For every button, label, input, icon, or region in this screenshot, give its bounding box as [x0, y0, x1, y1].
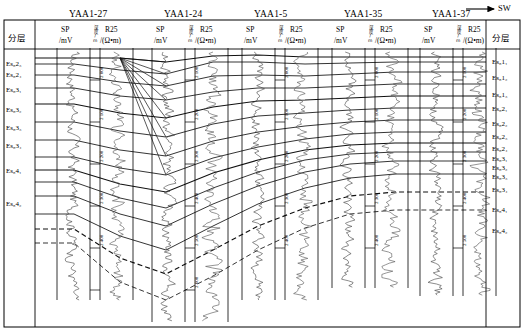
depth-tick-label: 2 100 [194, 67, 199, 78]
r25-track-label: R25 [380, 26, 393, 34]
depth-tick-label: 2 200 [374, 151, 379, 162]
depth-tick-label: 2 400 [284, 235, 289, 246]
well-name-label: YAA1-37 [432, 10, 470, 20]
right-zone-label-1: Es₈1₂ [492, 75, 507, 82]
r25-track-label: R25 [290, 26, 303, 34]
left-zone-label-5: Es₈3₄ [6, 143, 21, 150]
r25-log-curve [109, 52, 125, 300]
left-zone-label-7: Es₈4₂ [6, 201, 21, 208]
sp-track-label: SP [336, 26, 344, 34]
depth-tick-label: 2 200 [99, 151, 104, 162]
depth-tick-label: 2 300 [462, 151, 467, 162]
r25-track-label: R25 [468, 26, 481, 34]
depth-tick-label: 2 600 [194, 277, 199, 288]
sp-unit-label: /mV [422, 37, 435, 45]
well-track [57, 48, 133, 300]
depth-axis-vertical-label: 深度/m [187, 25, 192, 48]
depth-tick-label: 2 500 [462, 235, 467, 246]
right-zone-label-12: Es₈4₂ [492, 228, 507, 235]
right-zone-label-9: Es₈3₃ [492, 174, 507, 181]
sp-track-label: SP [246, 26, 254, 34]
correlation-lines-group [35, 55, 486, 300]
left-zone-label-6: Es₈4₁ [6, 168, 21, 175]
fan-tie-line [120, 58, 166, 156]
depth-tick-label: 2 300 [99, 193, 104, 204]
depth-tick-label: 2 000 [374, 67, 379, 78]
right-zone-label-11: Es₈4₁ [492, 207, 507, 214]
r25-log-curve [382, 52, 402, 287]
correlation-line [35, 84, 486, 100]
depth-tick-label: 2 400 [374, 235, 379, 246]
sp-unit-label: /mV [59, 37, 72, 45]
right-column-title: 分层 [492, 34, 510, 43]
depth-tick-label: 2 100 [374, 109, 379, 120]
left-column-title: 分层 [8, 34, 26, 43]
right-zone-label-7: Es₈3₁ [492, 156, 507, 163]
depth-tick-label: 2 300 [284, 193, 289, 204]
r25-unit-label: /(Ω•m) [100, 37, 121, 45]
depth-tick-label: 2 100 [462, 67, 467, 78]
depth-axis-vertical-label: 深度/m [455, 25, 460, 48]
fan-tie-line [120, 58, 166, 137]
fan-tie-line [120, 58, 166, 100]
figure-border [4, 20, 520, 327]
correlation-line [35, 192, 486, 274]
depth-tick-label: 2 500 [194, 235, 199, 246]
well-track [152, 48, 228, 322]
r25-unit-label: /(Ω•m) [463, 37, 484, 45]
well-track [420, 48, 496, 296]
r25-unit-label: /(Ω•m) [375, 37, 396, 45]
sp-log-curve [340, 52, 356, 287]
left-zone-label-2: Es₈3₁ [6, 87, 21, 94]
depth-axis-vertical-label: 深度/m [277, 25, 282, 48]
depth-tick-label: 2 200 [284, 151, 289, 162]
left-zone-label-3: Es₈3₂ [6, 107, 21, 114]
fan-tie-line [120, 58, 166, 175]
well-name-label: YAA1-35 [344, 10, 382, 20]
well-name-label: YAA1-5 [254, 10, 287, 20]
correlation-line [35, 55, 486, 62]
depth-tick-label: 2 200 [194, 109, 199, 120]
depth-tick-label: 2 000 [99, 67, 104, 78]
depth-tick-label: 2 400 [194, 193, 199, 204]
depth-tick-label: 2 000 [284, 67, 289, 78]
left-zone-label-0: Es₈2₃ [6, 61, 21, 68]
right-zone-label-5: Es₈2₃ [492, 134, 507, 141]
sp-log-curve [251, 52, 265, 300]
fan-tie-line [120, 58, 166, 118]
left-zone-label-1: Es₈2₄ [6, 72, 21, 79]
well-name-label: YAA1-24 [164, 10, 202, 20]
r25-unit-label: /(Ω•m) [285, 37, 306, 45]
well-correlation-figure: 分层 分层 SW YAA1-27SP/mVR25/(Ω•m)深度/m2 0002… [0, 0, 524, 331]
sp-log-curve [161, 52, 177, 321]
right-zone-label-8: Es₈3₂ [492, 165, 507, 172]
sp-track-label: SP [156, 26, 164, 34]
sp-unit-label: /mV [244, 37, 257, 45]
depth-tick-label: 2 100 [284, 109, 289, 120]
depth-tick-label: 2 300 [194, 151, 199, 162]
depth-tick-label: 2 100 [99, 109, 104, 120]
depth-tick-label: 2 200 [462, 109, 467, 120]
r25-track-label: R25 [105, 26, 118, 34]
depth-axis-vertical-label: 深度/m [92, 25, 97, 48]
depth-tick-label: 2 400 [462, 193, 467, 204]
right-zone-label-0: Es₈1₁ [492, 59, 507, 66]
sp-track-label: SP [61, 26, 69, 34]
right-zone-label-10: Es₈3₄ [492, 187, 507, 194]
right-zone-label-6: Es₈2₄ [492, 146, 507, 153]
left-zone-label-4: Es₈3₃ [6, 125, 21, 132]
sp-unit-label: /mV [154, 37, 167, 45]
sp-unit-label: /mV [334, 37, 347, 45]
fan-tie-line [120, 58, 166, 62]
direction-label: SW [498, 4, 511, 13]
r25-log-curve [293, 52, 312, 300]
depth-tick-label: 2 400 [99, 235, 104, 246]
r25-unit-label: /(Ω•m) [195, 37, 216, 45]
well-name-label: YAA1-27 [69, 10, 107, 20]
right-zone-label-2: Es₈1₃ [492, 92, 507, 99]
right-zone-label-4: Es₈2₂ [492, 121, 507, 128]
sp-track-label: SP [424, 26, 432, 34]
sp-log-curve [65, 52, 80, 300]
right-zone-label-3: Es₈2₁ [492, 106, 507, 113]
figure-canvas [0, 0, 524, 331]
